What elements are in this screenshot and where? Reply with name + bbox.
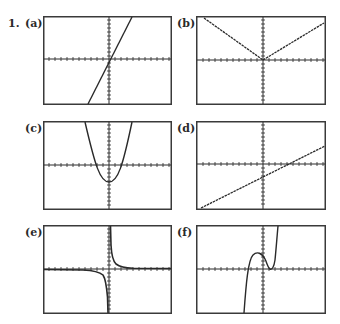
graph-label-c: (c) (25, 123, 42, 135)
graph-e (43, 225, 172, 314)
graph-a-plot (43, 16, 172, 105)
graph-label-b: (b) (177, 18, 195, 30)
problem-number: 1. (8, 18, 19, 30)
graph-label-a: (a) (25, 18, 43, 30)
graph-c (43, 121, 172, 210)
graph-d (196, 121, 325, 210)
graph-d-plot (196, 121, 326, 210)
graph-label-f: (f) (177, 227, 192, 239)
graph-c-plot (43, 121, 172, 210)
graph-f (196, 225, 325, 314)
graph-label-e: (e) (25, 227, 42, 239)
graph-b (196, 16, 325, 105)
graph-f-plot (196, 225, 326, 314)
graph-label-d: (d) (177, 123, 195, 135)
graph-e-plot (43, 225, 172, 314)
graph-b-plot (196, 16, 326, 105)
graph-a (43, 16, 172, 105)
